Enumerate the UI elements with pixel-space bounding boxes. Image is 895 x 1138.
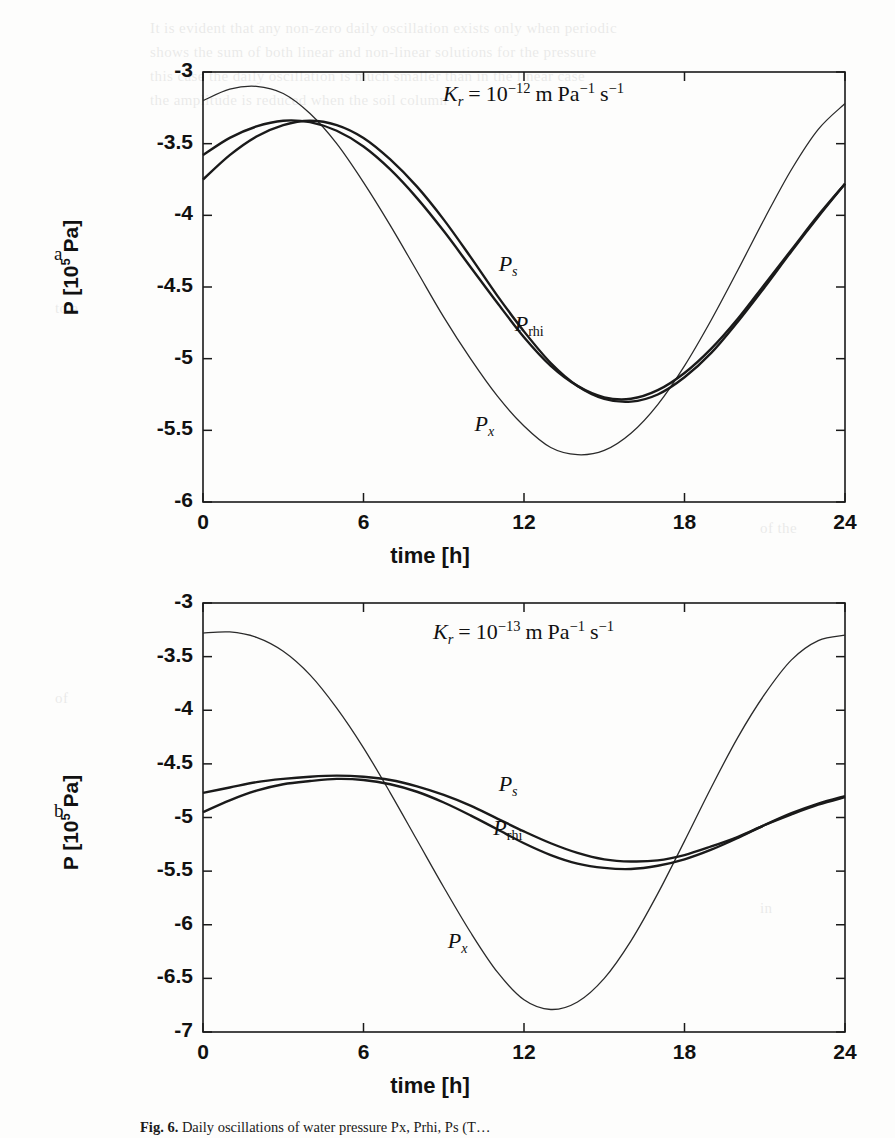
panel-a-annotation-unit-s-exp: −1 [609, 80, 624, 96]
y-tick-label: -5.5 [107, 416, 193, 440]
y-tick-label: -3 [107, 58, 193, 82]
panel-b-annotation-unit-m: m [525, 619, 542, 644]
panel-a-annotation-symbol: K [443, 81, 458, 106]
curve-label-base: P [515, 311, 528, 336]
y-tick-label: -3.5 [107, 130, 193, 154]
panel-b-annotation-exponent: −13 [498, 618, 521, 634]
curve-p-s [203, 776, 845, 862]
panel-a-annotation-equals: = [468, 81, 480, 106]
y-tick-label: -5 [107, 345, 193, 369]
x-tick-label: 6 [324, 1040, 404, 1064]
curve-label-subscript: s [512, 784, 517, 800]
plot-frame [203, 72, 845, 502]
curve-label-p-s: Ps [499, 771, 518, 800]
curve-label-subscript: x [488, 424, 494, 440]
curve-label-base: P [493, 815, 506, 840]
panel-a-annotation-unit-m: m [535, 81, 552, 106]
panel-b-x-axis-label: time [h] [330, 1073, 530, 1099]
y-tick-label: -5 [107, 804, 193, 828]
panel-a-annotation-subscript: r [458, 94, 464, 110]
curve-label-base: P [475, 411, 488, 436]
curve-label-subscript: rhi [528, 324, 544, 340]
x-tick-label: 0 [163, 1040, 243, 1064]
panel-a-annotation-unit-s: s [600, 81, 609, 106]
figure-caption: Fig. 6. Daily oscillations of water pres… [140, 1118, 780, 1137]
curve-p-rhi [203, 121, 845, 402]
panel-b-annotation-base: 10 [476, 619, 498, 644]
x-tick-label: 18 [645, 1040, 725, 1064]
panel-a-annotation: Kr=10−12mPa−1s−1 [443, 80, 624, 111]
panel-b-y-axis-label-prefix: P [10 [59, 820, 82, 870]
plot-frame [203, 603, 845, 1032]
panel-b-y-axis-label-exponent: 5 [58, 813, 73, 820]
y-tick-label: -4.5 [107, 273, 193, 297]
y-tick-label: -4.5 [107, 750, 193, 774]
y-tick-label: -3.5 [107, 643, 193, 667]
x-tick-label: 18 [645, 510, 725, 534]
panel-b-annotation-symbol: K [433, 619, 448, 644]
y-tick-label: -6 [107, 488, 193, 512]
panel-a-annotation-unit-pa-exp: −1 [580, 80, 595, 96]
curve-label-p-x: Px [475, 411, 495, 440]
panel-b: b P [105 Pa] time [h] Kr=10−13mPa−1s−1 -… [0, 545, 895, 1100]
panel-a-y-axis-label-prefix: P [10 [59, 265, 82, 315]
x-tick-label: 12 [484, 1040, 564, 1064]
figure-caption-text: Daily oscillations of water pressure Px,… [182, 1119, 491, 1135]
panel-a: a P [105 Pa] time [h] Kr=10−12mPa−1s−1 -… [0, 0, 895, 570]
curve-label-p-rhi: Prhi [515, 311, 544, 340]
x-tick-label: 24 [805, 510, 885, 534]
curve-p-s [203, 120, 845, 399]
panel-a-annotation-unit-pa: Pa [558, 81, 580, 106]
figure-caption-prefix: Fig. 6. [140, 1119, 178, 1135]
panel-a-annotation-base: 10 [486, 81, 508, 106]
panel-b-annotation-subscript: r [448, 632, 454, 648]
x-tick-label: 0 [163, 510, 243, 534]
panel-b-y-axis-label: P [105 Pa] [58, 733, 83, 913]
curve-label-subscript: rhi [507, 828, 523, 844]
x-tick-label: 6 [324, 510, 404, 534]
y-tick-label: -7 [107, 1018, 193, 1042]
y-tick-label: -4 [107, 696, 193, 720]
panel-b-annotation-unit-s-exp: −1 [599, 618, 614, 634]
curve-label-base: P [499, 251, 512, 276]
figure-page: It is evident that any non-zero daily os… [0, 0, 895, 1138]
panel-b-annotation-unit-s: s [590, 619, 599, 644]
panel-a-annotation-exponent: −12 [508, 80, 531, 96]
panel-b-annotation-equals: = [458, 619, 470, 644]
curve-p-x [203, 86, 845, 455]
curve-label-p-rhi: Prhi [493, 815, 522, 844]
curve-p-rhi [203, 779, 845, 869]
curve-label-p-s: Ps [499, 251, 518, 280]
panel-b-annotation-unit-pa-exp: −1 [570, 618, 585, 634]
y-tick-label: -4 [107, 201, 193, 225]
curve-label-base: P [499, 771, 512, 796]
panel-a-y-axis-label-exponent: 5 [58, 258, 73, 265]
panel-a-y-axis-label-suffix: Pa] [59, 220, 82, 259]
x-tick-label: 24 [805, 1040, 885, 1064]
y-tick-label: -6.5 [107, 964, 193, 988]
y-tick-label: -6 [107, 911, 193, 935]
curve-label-p-x: Px [448, 928, 468, 957]
curve-p-x [203, 632, 845, 1010]
curve-label-subscript: s [512, 263, 517, 279]
x-tick-label: 12 [484, 510, 564, 534]
y-tick-label: -3 [107, 589, 193, 613]
panel-a-y-axis-label: P [105 Pa] [58, 178, 83, 358]
panel-b-annotation: Kr=10−13mPa−1s−1 [433, 618, 614, 649]
panel-b-y-axis-label-suffix: Pa] [59, 775, 82, 814]
panel-b-annotation-unit-pa: Pa [548, 619, 570, 644]
curve-label-base: P [448, 928, 461, 953]
y-tick-label: -5.5 [107, 857, 193, 881]
curve-label-subscript: x [461, 940, 467, 956]
